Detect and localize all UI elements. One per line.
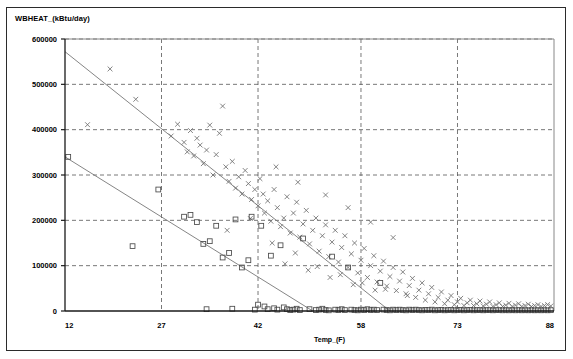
- data-point-x: [207, 123, 212, 128]
- data-point-x: [394, 288, 399, 293]
- data-point-square: [246, 258, 251, 263]
- data-point-x: [301, 222, 306, 227]
- data-point-x: [265, 198, 270, 203]
- scatter-plot: 0100000200000300000400000500000600000122…: [7, 8, 567, 352]
- x-tick-label: 58: [357, 321, 365, 330]
- data-point-x: [169, 134, 174, 139]
- x-tick-label: 88: [546, 321, 554, 330]
- data-point-x: [307, 242, 312, 247]
- data-point-x: [478, 299, 483, 304]
- data-point-square: [326, 308, 331, 313]
- data-point-square: [545, 308, 550, 313]
- data-point-x: [426, 291, 431, 296]
- data-point-x: [268, 219, 273, 224]
- data-point-x: [355, 271, 360, 276]
- data-point-square: [188, 212, 193, 217]
- data-point-x: [291, 211, 296, 216]
- data-point-x: [108, 67, 113, 72]
- data-point-x: [397, 279, 402, 284]
- y-tick-label: 300000: [32, 171, 57, 180]
- data-point-x: [351, 282, 356, 287]
- data-point-x: [294, 200, 299, 205]
- data-point-x: [410, 276, 415, 281]
- chart-frame: WBHEAT_(kBtu/day) 0100000200000300000400…: [6, 7, 566, 351]
- data-point-x: [230, 159, 235, 164]
- data-point-square: [233, 217, 238, 222]
- data-point-x: [272, 187, 277, 192]
- data-point-x: [225, 228, 230, 233]
- data-point-x: [204, 148, 209, 153]
- y-tick-label: 100000: [32, 261, 57, 270]
- data-point-x: [233, 186, 238, 191]
- data-point-square: [281, 305, 286, 310]
- x-tick-label: 12: [65, 321, 73, 330]
- data-point-x: [349, 251, 354, 256]
- data-point-x: [542, 303, 547, 308]
- data-point-x: [304, 208, 309, 213]
- data-point-x: [246, 181, 251, 186]
- data-point-x: [217, 131, 222, 136]
- data-point-square: [297, 308, 302, 313]
- data-point-x: [433, 300, 438, 305]
- data-point-x: [388, 274, 393, 279]
- data-point-x: [278, 224, 283, 229]
- data-point-x: [314, 216, 319, 221]
- data-point-square: [278, 243, 283, 248]
- data-point-x: [328, 275, 333, 280]
- data-point-x: [182, 140, 187, 145]
- data-point-x: [391, 265, 396, 270]
- data-point-x: [346, 205, 351, 210]
- data-point-x: [252, 187, 257, 192]
- data-point-square: [507, 308, 512, 313]
- data-point-x: [85, 122, 90, 127]
- data-point-square: [323, 308, 328, 313]
- data-point-x: [458, 296, 463, 301]
- x-axis-label: Temp_(F): [314, 336, 345, 344]
- data-point-square: [259, 223, 264, 228]
- data-point-square: [130, 244, 135, 249]
- data-point-x: [333, 228, 338, 233]
- data-point-x: [274, 164, 279, 169]
- data-point-square: [478, 308, 483, 313]
- fit-lower: [65, 157, 313, 311]
- x-tick-label: 27: [157, 321, 165, 330]
- data-point-square: [474, 308, 479, 313]
- y-tick-label: 200000: [32, 216, 57, 225]
- data-point-square: [484, 308, 489, 313]
- data-point-x: [175, 122, 180, 127]
- y-tick-label: 600000: [32, 35, 57, 44]
- data-point-x: [223, 164, 228, 169]
- data-point-x: [439, 290, 444, 295]
- data-point-x: [188, 128, 193, 133]
- data-point-square: [268, 253, 273, 258]
- data-point-square: [272, 306, 277, 311]
- data-point-x: [323, 222, 328, 227]
- data-point-x: [407, 283, 412, 288]
- data-point-x: [429, 285, 434, 290]
- data-point-x: [220, 104, 225, 109]
- data-point-x: [185, 149, 190, 154]
- data-point-square: [445, 308, 450, 313]
- data-point-square: [526, 308, 531, 313]
- x-tick-label: 73: [453, 321, 461, 330]
- data-point-x: [420, 280, 425, 285]
- y-tick-label: 400000: [32, 125, 57, 134]
- data-point-x: [378, 269, 383, 274]
- data-point-x: [391, 235, 396, 240]
- y-tick-label: 500000: [32, 80, 57, 89]
- data-point-x: [487, 300, 492, 305]
- data-point-x: [258, 176, 263, 181]
- data-point-x: [306, 268, 311, 273]
- data-point-x: [133, 97, 138, 102]
- data-point-x: [352, 241, 357, 246]
- data-point-x: [381, 259, 386, 264]
- fit-upper: [65, 52, 390, 311]
- data-point-x: [405, 293, 410, 298]
- data-point-x: [339, 245, 344, 250]
- data-point-x: [362, 246, 367, 251]
- data-point-x: [338, 272, 343, 277]
- data-point-x: [373, 288, 378, 293]
- data-point-x: [315, 264, 320, 269]
- data-point-square: [156, 187, 161, 192]
- data-point-x: [214, 152, 219, 157]
